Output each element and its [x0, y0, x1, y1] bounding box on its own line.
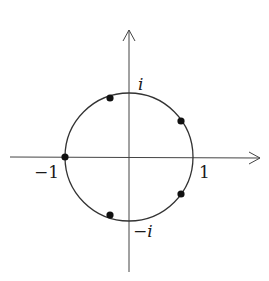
label-one: 1 — [199, 162, 210, 182]
complex-plane-diagram: i −i 1 −1 — [0, 0, 269, 281]
point-180 — [61, 153, 68, 160]
point-108 — [106, 94, 113, 101]
point-36 — [177, 117, 184, 124]
label-minus-one: −1 — [34, 162, 59, 182]
point-252 — [106, 211, 113, 218]
label-minus-i: −i — [133, 221, 153, 241]
real-axis — [10, 157, 260, 158]
point-324 — [177, 190, 184, 197]
label-i: i — [138, 74, 143, 94]
